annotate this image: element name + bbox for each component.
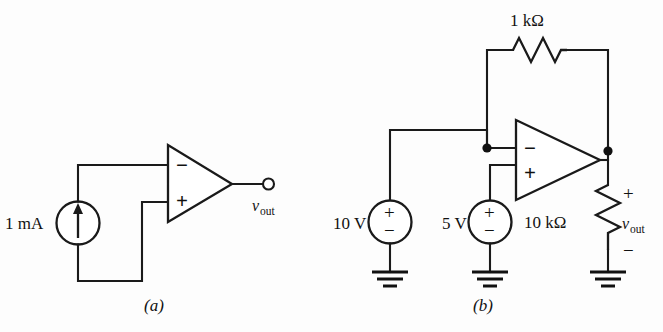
source-10v-label: 10 V <box>333 214 367 233</box>
wire-b-feedback-left <box>487 50 513 148</box>
wire-b-5v-to-noninverting <box>490 165 516 201</box>
output-label-b: vout <box>622 215 646 235</box>
circuit-b-group: 1 kΩ + − 10 V + − 5 V <box>333 11 646 315</box>
ground-symbol-load <box>590 272 626 286</box>
ground-symbol-10v <box>372 272 408 286</box>
wire-a-source-to-inverting <box>78 165 168 202</box>
feedback-resistor-label: 1 kΩ <box>510 11 544 30</box>
vout-plus-label: + <box>623 183 634 204</box>
source-5v-label: 5 V <box>442 214 467 233</box>
source-10v-minus: − <box>384 220 395 241</box>
output-terminal-a <box>263 179 274 190</box>
output-label-b-var: v <box>622 215 630 232</box>
source-5v-minus: − <box>484 220 495 241</box>
output-label-a-sub: out <box>260 205 276 217</box>
opamp-a-inverting-pin-label: − <box>176 153 188 177</box>
opamp-b-noninverting-pin-label: + <box>524 161 536 185</box>
load-resistor-symbol <box>596 185 620 250</box>
opamp-a-noninverting-pin-label: + <box>176 189 188 213</box>
circuit-a-group: − + vout 1 mA (a) <box>5 145 276 315</box>
output-label-b-sub: out <box>630 223 646 235</box>
output-label-a: vout <box>252 197 276 217</box>
opamp-b-body <box>516 120 600 200</box>
feedback-resistor-symbol <box>513 38 567 62</box>
caption-a: (a) <box>144 296 164 315</box>
opamp-b-inverting-pin-label: − <box>524 136 536 160</box>
ground-symbol-5v <box>472 272 508 286</box>
load-resistor-label: 10 kΩ <box>524 213 566 232</box>
vout-minus-label: − <box>623 240 634 261</box>
caption-b: (b) <box>473 296 493 315</box>
output-node-dot <box>603 146 612 155</box>
figure-root: − + vout 1 mA (a) 1 kΩ + <box>0 0 663 332</box>
current-source-label: 1 mA <box>5 214 44 233</box>
circuit-diagram-canvas: − + vout 1 mA (a) 1 kΩ + <box>0 0 663 332</box>
summing-node-dot <box>482 143 491 152</box>
output-label-a-var: v <box>252 197 260 214</box>
wire-b-feedback-right <box>567 50 608 148</box>
